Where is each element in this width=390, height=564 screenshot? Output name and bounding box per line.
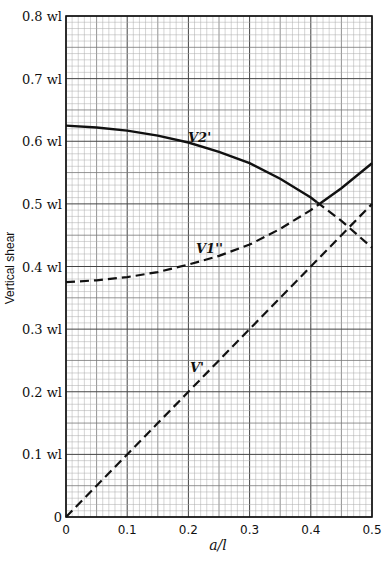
shear-chart: 00.1 wl0.2 wl0.3 wl0.4 wl0.5 wl0.6 wl0.7… xyxy=(0,0,390,564)
y-tick-label: 0.6 wl xyxy=(22,134,62,149)
x-axis-title: a/l xyxy=(209,537,227,553)
y-tick-label: 0.8 wl xyxy=(22,9,62,24)
y-tick-labels: 00.1 wl0.2 wl0.3 wl0.4 wl0.5 wl0.6 wl0.7… xyxy=(22,9,62,525)
y-tick-label: 0.7 wl xyxy=(22,72,62,87)
x-tick-label: 0.5 xyxy=(362,523,381,537)
y-tick-label: 0.2 wl xyxy=(22,385,62,400)
x-tick-label: 0 xyxy=(62,523,70,537)
curve-label-v2: V2' xyxy=(188,130,211,145)
y-axis-title: Vertical shear xyxy=(3,232,17,305)
curve-v1-dashed xyxy=(66,206,317,282)
y-tick-label: 0.3 wl xyxy=(22,322,62,337)
x-tick-label: 0.4 xyxy=(301,523,320,537)
curve-label-v1: V1'' xyxy=(196,241,223,256)
x-tick-label: 0.2 xyxy=(179,523,198,537)
x-tick-label: 0.3 xyxy=(240,523,259,537)
x-tick-label: 0.1 xyxy=(118,523,137,537)
curve-label-v: V' xyxy=(190,360,204,375)
y-tick-label: 0.4 wl xyxy=(22,260,62,275)
grid xyxy=(66,16,372,517)
curve-v2-dashed xyxy=(317,202,372,248)
x-tick-labels: 00.10.20.30.40.5 xyxy=(62,523,381,537)
y-tick-label: 0.5 wl xyxy=(22,197,62,212)
y-tick-label: 0 xyxy=(54,510,62,525)
curve-v1-solid xyxy=(317,163,372,206)
y-tick-label: 0.1 wl xyxy=(22,447,62,462)
